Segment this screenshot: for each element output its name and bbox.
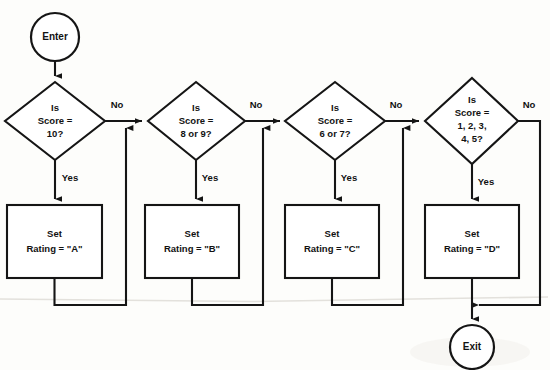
process-1-line-2: Rating = "A" — [26, 243, 82, 254]
decision-3-yes-label: Yes — [341, 172, 357, 183]
flowchart-svg: Enter Is Score = 10? No Yes Set Rating =… — [0, 0, 550, 370]
decision-4-line-4: 4, 5? — [461, 133, 483, 144]
process-4-line-1: Set — [465, 228, 481, 239]
process-3-line-2: Rating = "C" — [304, 243, 360, 254]
decision-3-line-1: Is — [331, 102, 339, 113]
decision-3-line-2: Score = — [318, 115, 353, 126]
process-4-line-2: Rating = "D" — [444, 243, 500, 254]
decision-2-line-3: 8 or 9? — [180, 128, 211, 139]
end-terminator-label: Exit — [463, 341, 482, 352]
decision-2-line-1: Is — [192, 102, 200, 113]
decision-4-line-3: 1, 2, 3, — [457, 120, 486, 131]
start-terminator-label: Enter — [42, 31, 68, 42]
decision-2-line-2: Score = — [179, 115, 214, 126]
scan-artifact-line — [0, 297, 548, 302]
decision-4-line-2: Score = — [455, 107, 490, 118]
decision-2-no-label: No — [250, 99, 263, 110]
process-3-line-1: Set — [325, 228, 341, 239]
decision-3-no-label: No — [390, 99, 403, 110]
decision-1-line-3: 10? — [47, 128, 64, 139]
decision-4-yes-label: Yes — [478, 176, 494, 187]
process-4-shape — [425, 205, 519, 278]
process-1-shape — [7, 205, 102, 278]
process-3-shape — [285, 205, 379, 278]
process-1-line-1: Set — [47, 228, 63, 239]
decision-1-line-1: Is — [51, 102, 59, 113]
decision-2-yes-label: Yes — [202, 172, 218, 183]
process-2-line-2: Rating = "B" — [164, 243, 220, 254]
process-2-line-1: Set — [185, 228, 201, 239]
decision-4-no-label: No — [523, 99, 536, 110]
process-2-shape — [145, 205, 239, 278]
decision-3-line-3: 6 or 7? — [319, 128, 350, 139]
decision-1-line-2: Score = — [38, 115, 73, 126]
decision-4-line-1: Is — [468, 94, 476, 105]
decision-1-yes-label: Yes — [62, 172, 78, 183]
decision-1-no-label: No — [111, 99, 124, 110]
flowchart-canvas: Enter Is Score = 10? No Yes Set Rating =… — [0, 0, 550, 370]
